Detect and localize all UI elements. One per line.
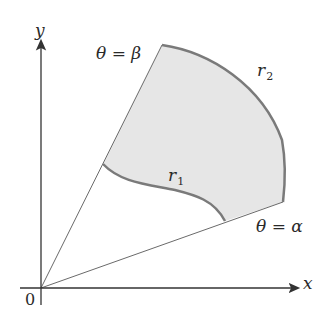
r2-base: r — [257, 60, 265, 80]
equals-sign: = — [112, 43, 126, 63]
theta-symbol: θ — [96, 43, 106, 63]
equals-sign: = — [272, 216, 286, 236]
y-axis-label: y — [35, 22, 45, 39]
x-axis-label: x — [303, 275, 313, 292]
diagram-graphic — [0, 0, 322, 328]
polar-region-diagram: y x 0 θ = β θ = α r1 r2 — [0, 0, 322, 328]
r2-label: r2 — [257, 62, 273, 79]
theta-beta-label: θ = β — [96, 45, 141, 62]
r1-base: r — [168, 165, 176, 185]
r1-subscript: 1 — [177, 175, 184, 188]
theta-symbol: θ — [256, 216, 266, 236]
origin-label: 0 — [25, 292, 35, 308]
r2-subscript: 2 — [266, 70, 273, 83]
alpha-symbol: α — [291, 216, 302, 236]
r1-label: r1 — [168, 167, 184, 184]
theta-alpha-label: θ = α — [256, 218, 303, 235]
beta-symbol: β — [131, 43, 141, 63]
